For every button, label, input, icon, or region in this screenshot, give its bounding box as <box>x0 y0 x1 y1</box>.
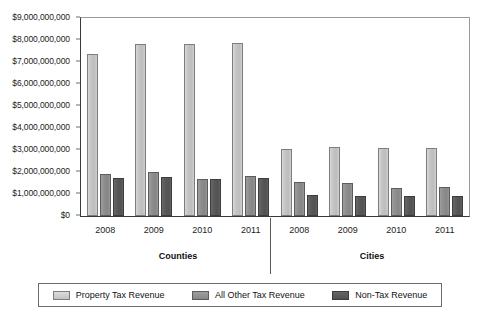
y-axis-tick-label: $3,000,000,000 <box>12 145 70 154</box>
legend-label: Non-Tax Revenue <box>355 290 427 300</box>
x-axis-section: 2008200920102011 <box>275 222 469 238</box>
bar-group-cities <box>275 18 469 216</box>
y-axis: $0$1,000,000,000$2,000,000,000$3,000,000… <box>0 12 76 218</box>
bar <box>87 54 98 216</box>
bar <box>342 183 353 216</box>
legend-swatch-icon <box>332 291 349 300</box>
bar <box>197 179 208 216</box>
bar <box>391 188 402 216</box>
bar <box>184 44 195 216</box>
year-cluster <box>421 18 470 216</box>
x-axis-year-label: 2010 <box>178 222 227 238</box>
bar <box>258 178 269 216</box>
year-cluster <box>130 18 179 216</box>
bar <box>245 176 256 216</box>
bar <box>378 148 389 216</box>
x-axis-section: 2008200920102011 <box>81 222 275 238</box>
y-axis-tick-label: $1,000,000,000 <box>12 189 70 198</box>
y-axis-tick-label: $9,000,000,000 <box>12 13 70 22</box>
legend-item: All Other Tax Revenue <box>192 290 305 300</box>
bar <box>439 187 450 216</box>
chart-legend: Property Tax RevenueAll Other Tax Revenu… <box>38 283 442 307</box>
bar-group-counties <box>81 18 275 216</box>
legend-swatch-icon <box>53 291 70 300</box>
bar <box>161 177 172 216</box>
bar <box>210 179 221 216</box>
bar <box>232 43 243 216</box>
group-title-cities: Cities <box>275 248 469 264</box>
legend-label: Property Tax Revenue <box>76 290 165 300</box>
bar <box>426 148 437 216</box>
y-axis-tick-label: $4,000,000,000 <box>12 123 70 132</box>
x-axis-year-label: 2010 <box>372 222 421 238</box>
bar <box>294 182 305 216</box>
plot-area <box>81 18 469 216</box>
y-axis-tick-label: $0 <box>61 211 70 220</box>
bar <box>100 174 111 216</box>
year-cluster <box>275 18 324 216</box>
year-cluster <box>372 18 421 216</box>
bar <box>355 196 366 216</box>
year-cluster <box>81 18 130 216</box>
legend-label: All Other Tax Revenue <box>215 290 305 300</box>
year-cluster <box>178 18 227 216</box>
y-axis-tick-label: $8,000,000,000 <box>12 35 70 44</box>
x-axis-year-label: 2009 <box>324 222 373 238</box>
y-axis-tick-label: $5,000,000,000 <box>12 101 70 110</box>
bar <box>307 195 318 216</box>
y-axis-tick-label: $2,000,000,000 <box>12 167 70 176</box>
legend-item: Property Tax Revenue <box>53 290 165 300</box>
x-axis-year-label: 2009 <box>130 222 179 238</box>
legend-swatch-icon <box>192 291 209 300</box>
group-title-row: CountiesCities <box>81 248 469 264</box>
x-axis-year-label: 2008 <box>275 222 324 238</box>
bar <box>329 147 340 216</box>
legend-item: Non-Tax Revenue <box>332 290 427 300</box>
bar <box>135 44 146 216</box>
x-axis-year-label: 2008 <box>81 222 130 238</box>
bar <box>452 196 463 216</box>
bar <box>281 149 292 216</box>
x-axis: 20082009201020112008200920102011 <box>81 222 469 238</box>
y-axis-tick-label: $7,000,000,000 <box>12 57 70 66</box>
x-axis-year-label: 2011 <box>227 222 276 238</box>
year-cluster <box>324 18 373 216</box>
x-axis-year-label: 2011 <box>421 222 470 238</box>
bar-chart: $0$1,000,000,000$2,000,000,000$3,000,000… <box>0 0 478 317</box>
bar <box>113 178 124 216</box>
y-axis-tick-label: $6,000,000,000 <box>12 79 70 88</box>
bar <box>148 172 159 216</box>
year-cluster <box>227 18 276 216</box>
bar <box>404 196 415 216</box>
group-title-counties: Counties <box>81 248 275 264</box>
